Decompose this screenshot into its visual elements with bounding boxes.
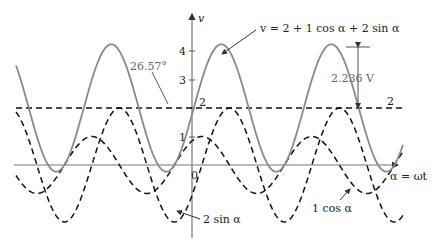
- cos-leader: [340, 189, 350, 200]
- waveform-diagram: v 0 1 2 3 4 v = 2 + 1 cos α + 2 sin α 26…: [0, 0, 437, 250]
- y-axis-label: v: [198, 12, 205, 25]
- dc-label: 2: [387, 95, 394, 108]
- angle-leader: [152, 72, 168, 104]
- cos-label: 1 cos α: [312, 202, 352, 215]
- angle-label: 26.57°: [130, 60, 167, 73]
- tick-0: 0: [191, 169, 198, 182]
- equation-leader: [222, 30, 256, 54]
- tick-2: 2: [199, 96, 206, 109]
- tick-3: 3: [179, 74, 186, 87]
- amplitude-label: 2.236 V: [331, 72, 375, 85]
- x-axis-label: α = ωt: [390, 170, 428, 183]
- plot-canvas: v 0 1 2 3 4 v = 2 + 1 cos α + 2 sin α 26…: [0, 0, 437, 250]
- tick-4: 4: [179, 45, 186, 58]
- sin-label: 2 sin α: [203, 213, 241, 226]
- tick-1: 1: [179, 131, 186, 144]
- equation-label: v = 2 + 1 cos α + 2 sin α: [259, 22, 400, 35]
